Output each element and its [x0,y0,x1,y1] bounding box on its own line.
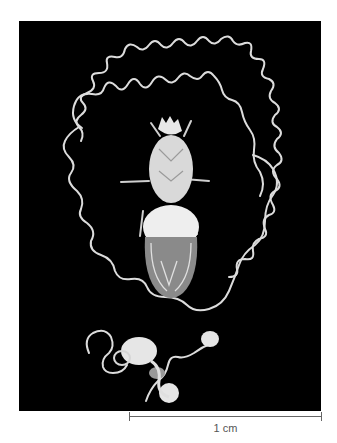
specimen-photo [19,21,321,411]
fly [121,116,209,298]
scale-bar-line [129,416,322,417]
scale-bar-tick-left [129,412,130,421]
specimen-illustration [19,21,321,411]
scale-bar-tick-right [321,412,322,421]
scale-bar [129,412,322,422]
scale-bar-label: 1 cm [129,422,322,434]
